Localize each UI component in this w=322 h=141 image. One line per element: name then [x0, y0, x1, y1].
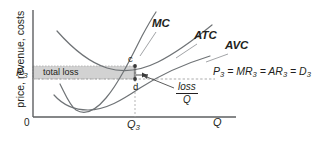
loss-per-unit-denominator: Q: [176, 94, 198, 105]
atc-leader-line: [176, 44, 197, 58]
avc-leader-line: [206, 54, 228, 62]
total-loss-label: total loss: [43, 68, 79, 77]
price-tick-label: P3: [16, 67, 28, 80]
origin-label: 0: [24, 118, 30, 128]
y-axis-title: price, revenue, costs: [15, 0, 26, 119]
point-c-label: c: [128, 54, 133, 64]
demand-equality-label: P3 = MR3 = AR3 = D3: [213, 66, 311, 78]
x-axis-title: Q: [213, 117, 222, 128]
economics-figure: price, revenue, costs total loss P3 0 Q3…: [0, 0, 322, 141]
avc-curve-label: AVC: [225, 40, 248, 52]
atc-curve-label: ATC: [194, 30, 217, 42]
loss-per-unit-label: loss Q: [176, 82, 198, 105]
mc-curve-label: MC: [152, 18, 170, 30]
loss-per-unit-numerator: loss: [176, 82, 198, 94]
quantity-tick-label: Q3: [127, 119, 140, 132]
point-d-label: d: [133, 82, 138, 92]
point-c-marker: [133, 64, 137, 68]
mc-curve: [60, 12, 156, 112]
